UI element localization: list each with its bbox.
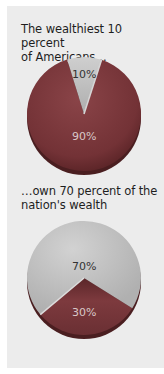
slice-label-30: 30% — [72, 306, 96, 319]
pie-chart-wealth: 70% 30% — [26, 218, 142, 340]
slice-label-70: 70% — [72, 260, 96, 273]
pie-chart-americans: 10% 90% — [26, 56, 142, 176]
caption-line: The wealthiest 10 percent — [21, 22, 161, 50]
slice-label-90: 90% — [72, 130, 96, 143]
slice-label-10: 10% — [72, 68, 96, 81]
caption-line: …own 70 percent of the — [21, 184, 161, 198]
caption-line: nation's wealth — [21, 198, 161, 212]
chart-title-bottom: …own 70 percent of the nation's wealth — [21, 184, 161, 212]
